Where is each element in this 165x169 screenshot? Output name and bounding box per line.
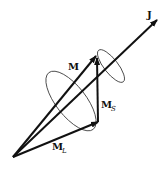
j-label: J: [146, 9, 152, 20]
ml-subscript: L: [61, 147, 67, 155]
ms-vector-arrow: [97, 58, 98, 122]
m-label: M: [68, 61, 79, 72]
j-vector-arrow: [13, 20, 157, 157]
ms-subscript: S: [111, 105, 116, 113]
vector-coupling-diagram: J M M L M S: [0, 0, 165, 169]
